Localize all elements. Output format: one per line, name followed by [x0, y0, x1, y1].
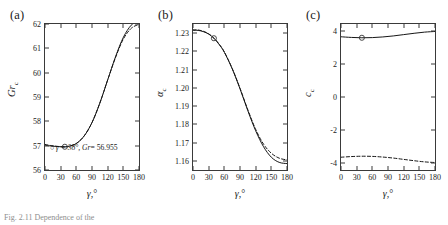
xtick-mark [388, 24, 389, 28]
xtick-mark [255, 166, 256, 170]
xtick-mark [107, 24, 108, 28]
xtick-mark [123, 24, 124, 28]
xtick-mark [240, 24, 241, 28]
ytick-label: 1.16 [175, 156, 189, 165]
xtick-mark [356, 166, 357, 170]
xtick-mark [372, 24, 373, 28]
ytick-label: 1.19 [175, 102, 189, 111]
panel-c-curves [341, 24, 435, 170]
ytick-label: 2 [333, 59, 337, 68]
ytick-label: 1.22 [175, 47, 189, 56]
ytick-label: 57 [33, 141, 41, 150]
ytick-mark [431, 63, 435, 64]
xtick-label: 90 [88, 173, 96, 182]
ytick-mark [45, 72, 49, 73]
xtick-mark [193, 166, 194, 170]
ytick-mark [135, 97, 139, 98]
xtick-mark [139, 166, 140, 170]
ytick-mark [45, 48, 49, 49]
xtick-mark [224, 24, 225, 28]
ytick-label: 1.20 [175, 83, 189, 92]
xtick-label: 30 [205, 173, 213, 182]
xtick-mark [356, 24, 357, 28]
xtick-mark [208, 24, 209, 28]
xtick-label: 90 [384, 173, 392, 182]
curve-solid [45, 24, 139, 147]
panel-b-curves [193, 24, 287, 170]
ytick-mark [193, 33, 197, 34]
xtick-mark [123, 166, 124, 170]
xtick-label: 90 [236, 173, 244, 182]
xtick-mark [403, 166, 404, 170]
ytick-mark [431, 97, 435, 98]
panel-c-ylabel: cc [302, 89, 316, 97]
ytick-label: 1.23 [175, 29, 189, 38]
ytick-mark [283, 124, 287, 125]
ytick-label: 58 [33, 117, 41, 126]
ytick-mark [341, 30, 345, 31]
ytick-mark [45, 121, 49, 122]
xtick-label: 60 [368, 173, 376, 182]
xtick-label: 150 [265, 173, 277, 182]
curve-dashed [45, 24, 139, 147]
ytick-mark [193, 124, 197, 125]
xtick-mark [403, 24, 404, 28]
ytick-mark [283, 33, 287, 34]
ytick-mark [135, 48, 139, 49]
panel-c-label: (c) [306, 8, 320, 23]
xtick-mark [271, 166, 272, 170]
panel-b-plot-area: 1.161.171.181.191.201.211.221.2303060901… [192, 23, 288, 171]
xtick-label: 180 [133, 173, 145, 182]
ytick-mark [135, 72, 139, 73]
panel-c-xlabel: γ,° [383, 188, 393, 199]
ytick-mark [283, 160, 287, 161]
panel-a: (a) Grc 565758596061620306090120150180 ○… [0, 0, 149, 225]
ytick-mark [431, 130, 435, 131]
xtick-label: 60 [220, 173, 228, 182]
ytick-mark [193, 142, 197, 143]
ytick-mark [431, 30, 435, 31]
ytick-label: 56 [33, 166, 41, 175]
xtick-mark [92, 24, 93, 28]
ytick-label: 62 [33, 20, 41, 29]
ytick-mark [341, 63, 345, 64]
panel-a-label: (a) [10, 8, 24, 23]
ytick-label: 0 [333, 93, 337, 102]
xtick-mark [224, 166, 225, 170]
xtick-mark [341, 24, 342, 28]
xtick-mark [419, 166, 420, 170]
xtick-label: 30 [353, 173, 361, 182]
xtick-label: 180 [281, 173, 293, 182]
panel-a-xlabel: γ,° [87, 188, 97, 199]
ytick-label: 59 [33, 93, 41, 102]
xtick-mark [193, 24, 194, 28]
ytick-mark [283, 142, 287, 143]
ytick-mark [135, 145, 139, 146]
ytick-mark [283, 51, 287, 52]
ytick-mark [283, 87, 287, 88]
xtick-label: 0 [191, 173, 195, 182]
ytick-mark [45, 170, 49, 171]
ytick-label: 4 [333, 26, 337, 35]
panel-b-ylabel: αc [154, 88, 168, 97]
annotation-circle-marker-icon: ○ [50, 144, 54, 152]
ytick-mark [341, 130, 345, 131]
panel-b: (b) αc 1.161.171.181.191.201.211.221.230… [148, 0, 297, 225]
ytick-mark [45, 97, 49, 98]
xtick-mark [92, 166, 93, 170]
xtick-mark [341, 166, 342, 170]
ytick-label: 1.18 [175, 120, 189, 129]
xtick-label: 60 [72, 173, 80, 182]
xtick-mark [372, 166, 373, 170]
figure-caption: Fig. 2.11 Dependence of the [4, 213, 444, 225]
ytick-label: 61 [33, 44, 41, 53]
ytick-mark [45, 145, 49, 146]
xtick-mark [287, 166, 288, 170]
xtick-label: 120 [398, 173, 410, 182]
xtick-label: 0 [43, 173, 47, 182]
panel-c: (c) cc -4-20240306090120150180 γ,° [296, 0, 445, 225]
curve-upper-solid [341, 31, 435, 37]
curve-dashed [193, 30, 287, 160]
ytick-mark [193, 69, 197, 70]
ytick-mark [341, 163, 345, 164]
